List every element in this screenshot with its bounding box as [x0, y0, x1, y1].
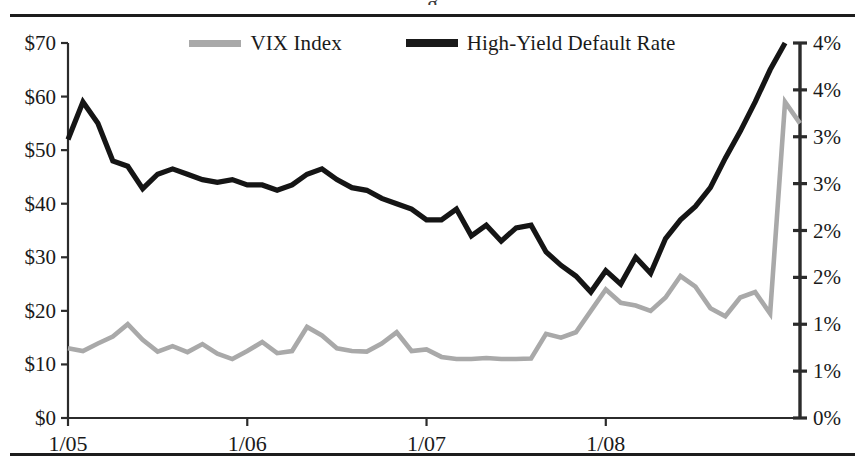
x-axis: 1/051/061/071/08	[48, 418, 800, 456]
x-axis-tick-label: 1/08	[586, 431, 625, 456]
chart-svg: $0$10$20$30$40$50$60$70 0%1%1%2%2%3%3%4%…	[0, 0, 865, 471]
data-series	[68, 43, 800, 359]
series-path-vix-index	[68, 102, 800, 359]
left-axis-tick-label: $40	[25, 192, 57, 216]
left-axis-tick-label: $50	[25, 138, 57, 162]
x-axis-tick-label: 1/07	[407, 431, 446, 456]
left-axis-tick-label: $20	[25, 299, 57, 323]
right-axis-tick-label: 4%	[813, 78, 841, 102]
right-axis-tick-label: 2%	[813, 265, 841, 289]
left-axis-tick-label: $60	[25, 85, 57, 109]
right-axis-tick-label: 2%	[813, 219, 841, 243]
plot-area: $0$10$20$30$40$50$60$70 0%1%1%2%2%3%3%4%…	[0, 0, 865, 471]
x-axis-tick-label: 1/05	[48, 431, 87, 456]
right-axis-tick-label: 0%	[813, 406, 841, 430]
left-axis-tick-label: $0	[35, 406, 56, 430]
right-axis: 0%1%1%2%2%3%3%4%4%	[793, 31, 841, 430]
right-axis-tick-label: 4%	[813, 31, 841, 55]
left-axis-tick-label: $30	[25, 245, 57, 269]
right-axis-tick-label: 1%	[813, 312, 841, 336]
right-axis-tick-label: 3%	[813, 172, 841, 196]
right-axis-tick-label: 3%	[813, 125, 841, 149]
x-axis-tick-label: 1/06	[228, 431, 267, 456]
right-axis-tick-label: 1%	[813, 359, 841, 383]
left-axis-tick-label: $10	[25, 352, 57, 376]
left-axis: $0$10$20$30$40$50$60$70	[25, 31, 69, 430]
left-axis-tick-label: $70	[25, 31, 57, 55]
series-path-high-yield-default-rate	[68, 43, 785, 292]
chart-figure: g VIX Index High-Yield Default Rate $0$1…	[0, 0, 865, 471]
